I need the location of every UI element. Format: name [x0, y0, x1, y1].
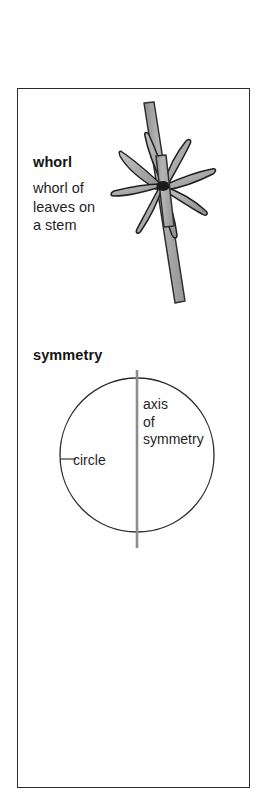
label-circle: circle — [73, 452, 106, 470]
dictionary-entry-whorl: whorl whorl of leaves on a stem — [33, 154, 95, 235]
gloss-whorl: whorl of leaves on a stem — [33, 179, 95, 235]
dictionary-entry-symmetry: symmetry — [33, 347, 102, 363]
label-axis-of-symmetry: axis of symmetry — [143, 396, 204, 449]
whorl-illustration — [96, 96, 226, 311]
whorl-node — [157, 181, 170, 191]
headword-symmetry: symmetry — [33, 347, 102, 363]
headword-whorl: whorl — [33, 154, 95, 170]
